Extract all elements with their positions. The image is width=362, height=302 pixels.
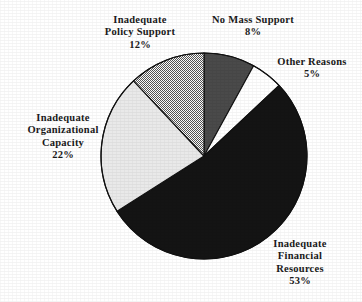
slice-label-line: Organizational (8, 124, 118, 136)
slice-percent: 22% (8, 149, 118, 161)
slice-percent: 53% (246, 275, 354, 287)
slice-label-line: Capacity (8, 137, 118, 149)
slice-percent: 8% (196, 26, 310, 38)
slice-label-line: Inadequate (84, 14, 196, 26)
slice-label-no-mass-support: No Mass Support 8% (196, 14, 310, 39)
slice-label-line: Resources (246, 263, 354, 275)
pie-chart: Inadequate Policy Support 12% No Mass Su… (0, 0, 362, 302)
slice-label-inadequate-policy-support: Inadequate Policy Support 12% (84, 14, 196, 51)
slice-label-line: Other Reasons (262, 56, 362, 68)
slice-label-inadequate-organizational-capacity: Inadequate Organizational Capacity 22% (8, 112, 118, 162)
pie-slices-group (101, 53, 307, 259)
slice-percent: 12% (84, 39, 196, 51)
slice-percent: 5% (262, 68, 362, 80)
slice-label-line: Financial (246, 250, 354, 262)
slice-label-inadequate-financial-resources: Inadequate Financial Resources 53% (246, 238, 354, 288)
slice-label-line: Policy Support (84, 26, 196, 38)
slice-label-line: No Mass Support (196, 14, 310, 26)
slice-label-line: Inadequate (246, 238, 354, 250)
slice-label-other-reasons: Other Reasons 5% (262, 56, 362, 81)
slice-label-line: Inadequate (8, 112, 118, 124)
